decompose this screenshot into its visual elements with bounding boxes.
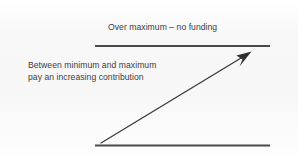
between-min-max-label-line-2: pay an increasing contribution	[28, 72, 156, 84]
between-min-max-label: Between minimum and maximum pay an incre…	[28, 60, 156, 83]
over-maximum-label: Over maximum – no funding	[108, 22, 217, 34]
funding-band-diagram: Over maximum – no funding Between minimu…	[0, 0, 298, 161]
between-min-max-label-line-1: Between minimum and maximum	[28, 60, 156, 72]
